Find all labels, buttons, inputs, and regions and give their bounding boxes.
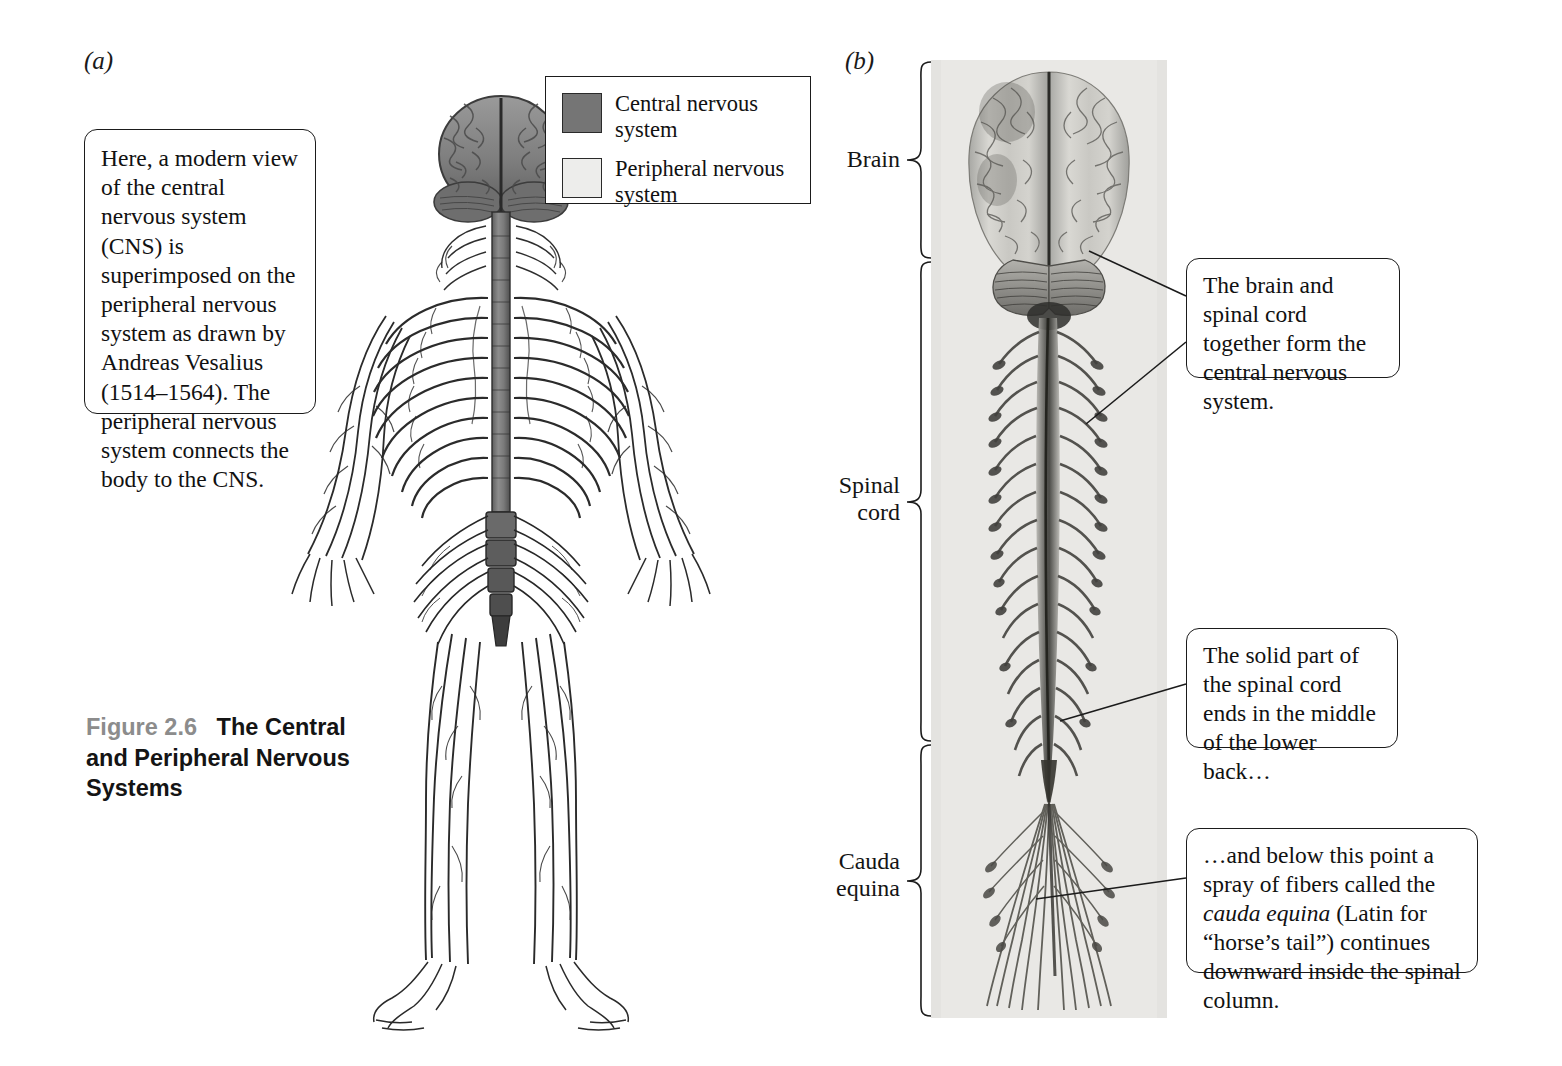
figure-caption: Figure 2.6 The Central and Peripheral Ne… [86,712,376,804]
callout-cauda-equina: …and below this point a spray of fibers … [1186,828,1478,973]
bracket-label-cauda-equina-line1: Cauda [828,848,900,875]
legend-label-cns: Central nervous system [615,91,810,144]
bracket-label-brain: Brain [840,146,900,173]
callout-spinal-cord-end: The solid part of the spinal cord ends i… [1186,628,1398,748]
callout-cauda-equina-term: cauda equina [1203,900,1330,926]
pns-swatch [562,158,602,198]
figure-number: Figure 2.6 [86,714,197,740]
spinal-cord-illustration [486,212,516,646]
bracket-label-spinal-cord: Spinal cord [832,472,900,527]
bracket-spinal-cord [903,260,933,743]
bracket-brain [903,60,933,260]
legend-row-pns: Peripheral nervous system [562,156,810,209]
cns-specimen-photograph [931,60,1167,1018]
bracket-label-cauda-equina-line2: equina [828,875,900,902]
legend-label-pns: Peripheral nervous system [615,156,810,209]
bracket-label-spinal-cord-line1: Spinal [832,472,900,499]
brain-photo [969,72,1129,330]
figure-page: (a) (b) [0,0,1562,1066]
panel-b-letter: (b) [845,47,874,75]
leg-nerves [374,634,629,1030]
callout-cns: The brain and spinal cord together form … [1186,258,1400,378]
callout-intro: Here, a modern view of the central nervo… [84,129,316,414]
callout-cauda-equina-text-1: …and below this point a spray of fibers … [1203,842,1435,897]
bracket-label-spinal-cord-line2: cord [832,499,900,526]
bracket-label-cauda-equina: Cauda equina [828,848,900,903]
bracket-cauda-equina [903,743,933,1018]
panel-a-letter: (a) [84,47,113,75]
legend: Central nervous system Peripheral nervou… [545,76,811,204]
cns-swatch [562,93,602,133]
legend-row-cns: Central nervous system [562,91,810,144]
